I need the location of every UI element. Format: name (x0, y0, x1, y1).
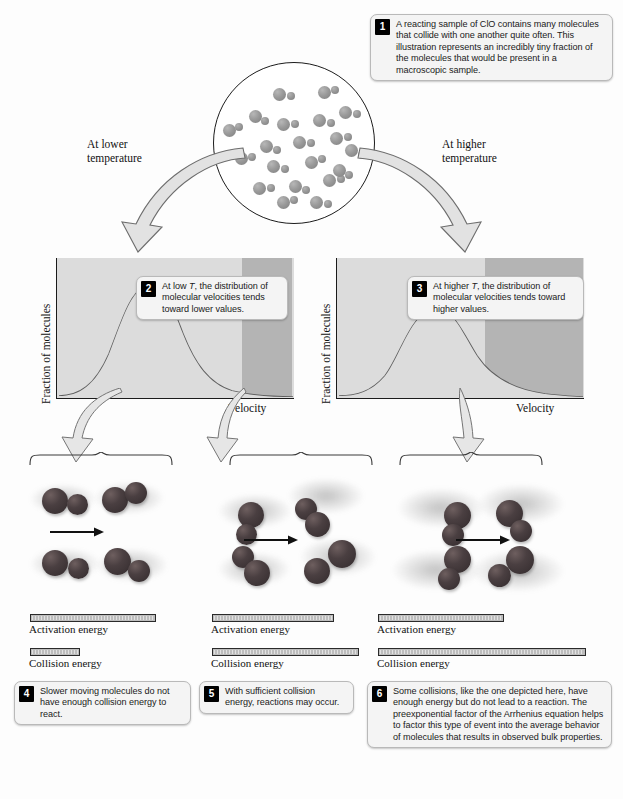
clo-oxygen-atom (290, 196, 298, 204)
callout-4-text: Slower moving molecules do not have enou… (40, 682, 190, 724)
clo-chlorine-atom (305, 156, 318, 169)
clo-oxygen-atom (291, 120, 299, 128)
callout-2-text-before: At low (162, 281, 189, 291)
clo-molecule (339, 104, 365, 126)
panel1-activation-label: Activation energy (29, 623, 108, 635)
panel1-direction-arrow (50, 526, 106, 538)
clo-oxygen-atom (307, 139, 315, 147)
callout-6: 6 Some collisions, like the one depicted… (367, 681, 612, 748)
panel2-activation-bar (212, 614, 334, 622)
panel-slow-collision (24, 470, 189, 590)
callout-3-text: At higher T, the distribution of molecul… (433, 277, 583, 319)
clo-molecule (310, 194, 336, 216)
panel2-ball-6 (244, 560, 270, 586)
clo-oxygen-atom (261, 117, 269, 125)
chart-high-ylabel: Fraction of molecules (320, 304, 332, 404)
panel2-direction-arrow (244, 534, 300, 546)
panel3-activation-bar (378, 614, 504, 622)
panel3-ball-6 (438, 568, 460, 590)
callout-5-badge: 5 (204, 686, 219, 702)
clo-chlorine-atom (330, 132, 343, 145)
brace-panel-1 (28, 452, 174, 466)
callout-2: 2 At low T, the distribution of molecula… (136, 276, 288, 320)
callout-2-text: At low T, the distribution of molecular … (162, 277, 287, 319)
clo-oxygen-atom (324, 200, 332, 208)
clo-oxygen-atom (344, 133, 352, 141)
clo-oxygen-atom (327, 119, 335, 127)
callout-4: 4 Slower moving molecules do not have en… (14, 681, 191, 725)
panel1-ball-2 (67, 494, 88, 515)
panel3-shadow-a (398, 488, 484, 528)
clo-chlorine-atom (339, 106, 352, 119)
clo-chlorine-atom (313, 114, 326, 127)
panel1-ball-4 (125, 482, 147, 504)
panel3-ball-4 (510, 520, 532, 542)
panel2-ball-7 (328, 540, 356, 568)
clo-chlorine-atom (260, 140, 273, 153)
panel1-ball-6 (68, 558, 89, 579)
clo-chlorine-atom (273, 88, 286, 101)
callout-2-badge: 2 (141, 281, 156, 297)
callout-6-text: Some collisions, like the one depicted h… (393, 682, 611, 747)
label-lower-line1: At lower (87, 138, 142, 152)
clo-molecule (318, 84, 344, 106)
panel-energetic-no-reaction (392, 470, 572, 590)
callout-1-text: A reacting sample of ClO contains many m… (396, 15, 612, 80)
panel1-ball-8 (128, 560, 150, 582)
panel2-ball-8 (304, 558, 330, 584)
panel3-direction-arrow (456, 534, 512, 546)
clo-oxygen-atom (331, 86, 339, 94)
panel2-collision-label: Collision energy (211, 657, 284, 669)
panel3-collision-label: Collision energy (377, 657, 450, 669)
brace-panel-2 (228, 452, 374, 466)
clo-molecule (273, 86, 299, 108)
figure-canvas: 1 A reacting sample of ClO contains many… (0, 0, 623, 799)
panel2-collision-bar (212, 648, 359, 656)
panel1-ball-1 (42, 488, 68, 514)
clo-chlorine-atom (318, 86, 331, 99)
clo-oxygen-atom (353, 110, 361, 118)
panel3-ball-8 (488, 564, 511, 587)
panel1-collision-bar (30, 648, 80, 656)
clo-oxygen-atom (318, 155, 326, 163)
clo-chlorine-atom (277, 196, 290, 209)
brace-panel-3 (398, 452, 544, 466)
clo-molecule (277, 194, 303, 216)
callout-5: 5 With sufficient collision energy, reac… (199, 681, 354, 714)
callout-1-badge: 1 (375, 19, 390, 35)
callout-6-badge: 6 (372, 686, 387, 702)
clo-chlorine-atom (253, 182, 266, 195)
callout-4-badge: 4 (19, 686, 34, 702)
label-at-lower-temperature: At lower temperature (87, 138, 142, 165)
clo-molecule (260, 138, 286, 160)
clo-oxygen-atom (345, 171, 353, 179)
panel1-ball-7 (104, 548, 131, 575)
clo-molecule (249, 108, 275, 130)
clo-oxygen-atom (287, 92, 295, 100)
clo-oxygen-atom (267, 184, 275, 192)
clo-chlorine-atom (267, 160, 280, 173)
label-higher-line1: At higher (442, 138, 497, 152)
clo-molecule (253, 180, 279, 202)
clo-chlorine-atom (310, 196, 323, 209)
panel1-ball-5 (42, 550, 68, 576)
callout-3-badge: 3 (412, 281, 427, 297)
callout-1: 1 A reacting sample of ClO contains many… (370, 14, 613, 81)
panel2-ball-4 (305, 512, 330, 537)
clo-chlorine-atom (277, 118, 290, 131)
panel3-activation-label: Activation energy (377, 623, 456, 635)
panel3-collision-bar (378, 648, 586, 656)
clo-oxygen-atom (281, 165, 289, 173)
panel3-ball-7 (506, 546, 534, 574)
callout-5-text: With sufficient collision energy, reacti… (225, 682, 353, 713)
label-lower-line2: temperature (87, 152, 142, 166)
clo-chlorine-atom (293, 136, 306, 149)
clo-molecule (267, 158, 293, 180)
panel1-collision-label: Collision energy (29, 657, 102, 669)
panel1-activation-bar (30, 614, 156, 622)
clo-oxygen-atom (273, 146, 281, 154)
panel-successful-collision (218, 470, 383, 590)
label-higher-line2: temperature (442, 152, 497, 166)
panel2-activation-label: Activation energy (211, 623, 290, 635)
clo-molecule (293, 134, 319, 156)
